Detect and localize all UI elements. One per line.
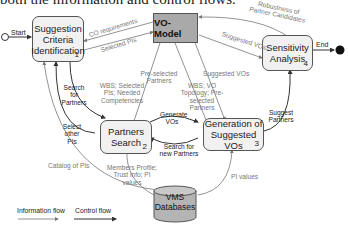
- edge-suggest-partners: Suggest Partners: [268, 109, 294, 124]
- edge-select-other-pis: Select other PIs: [60, 123, 84, 145]
- edge-search-for-partners: Search for Partners: [59, 84, 89, 106]
- edge-generate-vos: Generate VOs: [160, 111, 184, 126]
- step1-number: 1: [75, 49, 79, 60]
- step4-number: 4: [304, 58, 308, 69]
- edge-search-new-partners: Search for new Partners: [158, 143, 200, 158]
- step-suggestion-criteria-identification[interactable]: Suggestion Criteria Identification 1: [32, 16, 84, 62]
- edge-wbs-vo-topology: WBS; VO Topology; Pre-selected Partners: [178, 82, 226, 112]
- step-generation-suggested-vos[interactable]: Generation of Suggested VOs 3: [203, 118, 264, 151]
- edge-wbs-selected-pis: WBS; Selected PIs; Needed Competencies: [97, 82, 147, 104]
- vo-model-document[interactable]: VO-Model: [153, 13, 198, 43]
- legend-information-flow: Information flow: [17, 207, 65, 214]
- edge-pi-values: PI values: [231, 173, 258, 180]
- legend-control-flow: Control flow: [75, 207, 111, 214]
- step3-number: 3: [255, 138, 259, 149]
- db-label-line2: Databases: [153, 203, 197, 213]
- step2-number: 2: [143, 141, 147, 152]
- end-label: End: [316, 41, 328, 48]
- edge-pre-selected-partners: Pre-selected Partners: [140, 70, 178, 85]
- step-sensitivity-analysis[interactable]: Sensitivity Analysis 4: [262, 35, 313, 71]
- edge-suggested-vos-mid: Suggested VOs: [203, 70, 249, 77]
- edge-members-profile: Members Profile; Trust info; PI values: [104, 164, 160, 186]
- vms-databases-cylinder[interactable]: VMS Databases: [153, 185, 197, 226]
- vo-model-label: VO-Model: [154, 17, 197, 39]
- step-partners-search[interactable]: Partners Search 2: [100, 120, 152, 154]
- edge-catalog-of-pis: Catalog of PIs: [48, 162, 89, 169]
- start-label: Start: [11, 29, 26, 36]
